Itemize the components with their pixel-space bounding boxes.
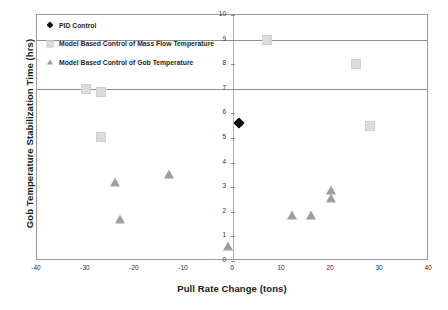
y-tick-label-9: 9 <box>210 35 226 42</box>
diamond-marker <box>233 117 244 128</box>
triangle-glyph <box>47 60 53 65</box>
data-point <box>115 215 125 224</box>
x-tick-label--20: -20 <box>122 264 146 271</box>
y-tick-label-10: 10 <box>210 10 226 17</box>
chart-legend: PID ControlModel Based Control of Mass F… <box>42 18 217 69</box>
triangle-marker <box>164 169 174 178</box>
y-tick-4 <box>231 163 235 164</box>
data-point <box>351 59 361 69</box>
data-point <box>96 87 106 97</box>
square-marker <box>81 84 91 94</box>
x-tick-label-20: 20 <box>318 264 342 271</box>
data-point <box>110 178 120 187</box>
diamond-glyph <box>46 21 53 28</box>
triangle-marker <box>326 194 336 203</box>
data-point <box>326 194 336 203</box>
x-axis-title: Pull Rate Change (tons) <box>36 283 428 294</box>
y-tick-6 <box>231 113 235 114</box>
data-point <box>164 169 174 178</box>
y-tick-label-8: 8 <box>210 59 226 66</box>
x-tick-label-30: 30 <box>367 264 391 271</box>
triangle-marker <box>115 215 125 224</box>
x-tick-label-0: 0 <box>220 264 244 271</box>
square-marker <box>96 87 106 97</box>
x-tick-label-10: 10 <box>269 264 293 271</box>
triangle-marker <box>306 211 316 220</box>
y-tick-10 <box>231 15 235 16</box>
legend-label: Model Based Control of Mass Flow Tempera… <box>59 40 214 47</box>
data-point <box>306 211 316 220</box>
y-tick-label-4: 4 <box>210 158 226 165</box>
y-tick-label-3: 3 <box>210 182 226 189</box>
data-point <box>262 35 272 45</box>
data-point <box>223 242 233 251</box>
data-point <box>239 123 247 131</box>
triangle-marker <box>223 242 233 251</box>
square-marker <box>351 59 361 69</box>
triangle-marker <box>110 178 120 187</box>
triangle-legend-icon <box>45 57 55 67</box>
x-tick-label--10: -10 <box>171 264 195 271</box>
square-marker <box>96 132 106 142</box>
y-tick-5 <box>231 138 235 139</box>
legend-item-1[interactable]: Model Based Control of Mass Flow Tempera… <box>45 39 214 49</box>
y-tick-label-0: 0 <box>210 256 226 263</box>
legend-label: PID Control <box>59 22 96 29</box>
y-tick-label-6: 6 <box>210 108 226 115</box>
y-axis-line <box>233 15 234 259</box>
triangle-marker <box>287 211 297 220</box>
y-tick-label-7: 7 <box>210 84 226 91</box>
legend-item-2[interactable]: Model Based Control of Gob Temperature <box>45 57 214 67</box>
square-marker <box>365 121 375 131</box>
y-tick-label-2: 2 <box>210 207 226 214</box>
x-tick-label--40: -40 <box>24 264 48 271</box>
square-legend-icon <box>45 39 55 49</box>
diamond-legend-icon <box>45 20 55 30</box>
y-tick-9 <box>231 40 235 41</box>
y-tick-1 <box>231 236 235 237</box>
data-point <box>81 84 91 94</box>
data-point <box>96 132 106 142</box>
chart-container: Gob Temperature Stabilization Time (hrs)… <box>0 0 448 310</box>
x-tick-label-40: 40 <box>416 264 440 271</box>
y-tick-3 <box>231 187 235 188</box>
square-marker <box>262 35 272 45</box>
y-tick-label-5: 5 <box>210 133 226 140</box>
y-tick-7 <box>231 89 235 90</box>
legend-label: Model Based Control of Gob Temperature <box>59 59 193 66</box>
y-axis-title: Gob Temperature Stabilization Time (hrs) <box>24 9 35 259</box>
x-tick-label--30: -30 <box>73 264 97 271</box>
y-tick-label-1: 1 <box>210 231 226 238</box>
square-glyph <box>47 40 54 47</box>
y-tick-0 <box>231 261 235 262</box>
data-point <box>287 211 297 220</box>
legend-item-0[interactable]: PID Control <box>45 20 214 30</box>
y-tick-2 <box>231 212 235 213</box>
y-tick-8 <box>231 64 235 65</box>
data-point <box>365 121 375 131</box>
